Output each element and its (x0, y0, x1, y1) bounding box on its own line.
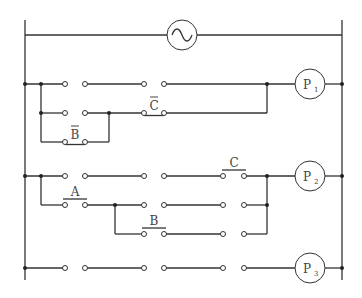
ladder-diagram: C B P 1 (0, 0, 362, 298)
rung-p3: P 3 (23, 253, 344, 283)
label-c-bar: C (149, 99, 158, 113)
label-b: B (150, 214, 159, 228)
svg-text:3: 3 (314, 270, 318, 278)
svg-text:P: P (303, 170, 311, 184)
ac-source-icon (167, 20, 197, 50)
output-p1-icon: P 1 (295, 69, 325, 99)
label-a: A (70, 185, 80, 199)
svg-text:2: 2 (314, 178, 318, 186)
svg-text:P: P (303, 262, 311, 276)
rung-p1: C B P 1 (23, 69, 344, 145)
output-p2-icon: P 2 (295, 161, 325, 191)
output-p3-icon: P 3 (295, 253, 325, 283)
svg-text:P: P (303, 78, 311, 92)
rung-p2: C A B P 2 (23, 156, 344, 237)
label-b-bar: B (71, 128, 80, 142)
label-c: C (229, 156, 238, 170)
svg-text:1: 1 (314, 86, 318, 94)
